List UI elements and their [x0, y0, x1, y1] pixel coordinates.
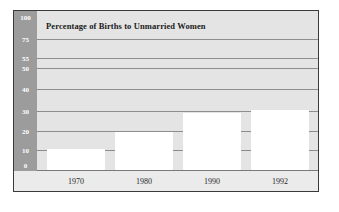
y-axis-tick-75: 75: [14, 36, 37, 44]
y-axis-band: 100 75 55 50 40 30 20 10 0: [14, 11, 37, 171]
x-axis-tick-1980: 1980: [115, 177, 173, 186]
y-axis-tick-10: 10: [14, 147, 37, 155]
y-axis-tick-100: 100: [14, 14, 37, 22]
x-axis: 1970 1980 1990 1992: [37, 171, 318, 192]
chart-title: Percentage of Births to Unmarried Women: [46, 21, 206, 31]
bar-1990: [183, 113, 241, 170]
y-axis-tick-50: 50: [14, 65, 37, 73]
x-axis-tick-1990: 1990: [183, 177, 241, 186]
y-axis-tick-20: 20: [14, 128, 37, 136]
chart-figure: 100 75 55 50 40 30 20 10 0 Percentage of…: [13, 10, 319, 192]
bar-1970: [47, 149, 105, 170]
gridline-50: [37, 68, 318, 69]
x-axis-tick-1992: 1992: [251, 177, 309, 186]
gridline-40: [37, 89, 318, 90]
x-axis-tick-1970: 1970: [47, 177, 105, 186]
bar-1980: [115, 132, 173, 170]
y-axis-tick-0: 0: [14, 162, 37, 170]
gridline-75: [37, 39, 318, 40]
y-axis-tick-55: 55: [14, 55, 37, 63]
y-axis-tick-30: 30: [14, 108, 37, 116]
gridline-55: [37, 58, 318, 59]
y-axis-tick-40: 40: [14, 86, 37, 94]
plot-area: Percentage of Births to Unmarried Women: [37, 11, 318, 171]
bar-1992: [251, 110, 309, 170]
